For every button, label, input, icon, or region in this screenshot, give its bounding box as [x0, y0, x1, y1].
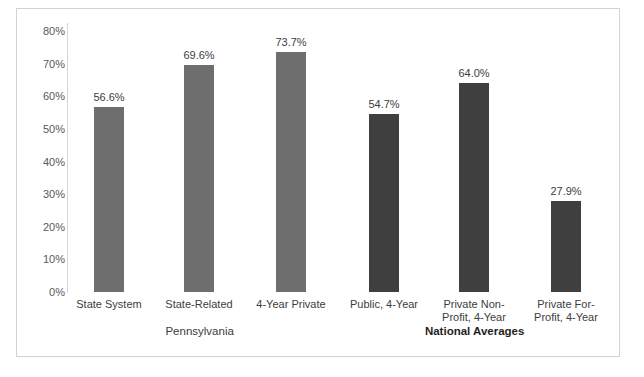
bar-rect[interactable] [94, 107, 124, 292]
bar-group: 56.6%State System [94, 107, 124, 292]
category-label-line: State-Related [156, 298, 242, 311]
category-label-line: State System [66, 298, 152, 311]
plot-area: 80%70%60%50%40%30%20%10%0% 56.6%State Sy… [17, 9, 621, 358]
category-label-line: Private Non- [431, 298, 517, 311]
bar-rect[interactable] [551, 201, 581, 292]
bars-layer: 56.6%State System69.6%State-Related73.7%… [17, 9, 621, 358]
bar-rect[interactable] [459, 83, 489, 292]
bar-group: 27.9%Private For-Profit, 4-Year [551, 201, 581, 292]
bar-group: 73.7%4-Year Private [276, 52, 306, 292]
bar-rect[interactable] [276, 52, 306, 292]
bar-value-label: 64.0% [458, 67, 489, 79]
category-label: Private For-Profit, 4-Year [523, 298, 609, 324]
category-label-line: Profit, 4-Year [523, 311, 609, 324]
bar-value-label: 56.6% [93, 91, 124, 103]
group-label: Pennsylvania [165, 325, 233, 337]
bar-group: 54.7%Public, 4-Year [369, 114, 399, 292]
bar-rect[interactable] [369, 114, 399, 292]
cropped-chart-title [0, 0, 644, 7]
category-label-line: Private For- [523, 298, 609, 311]
category-label: 4-Year Private [248, 298, 334, 311]
category-label: State-Related [156, 298, 242, 311]
bar-value-label: 54.7% [368, 98, 399, 110]
bar-value-label: 27.9% [550, 185, 581, 197]
bar-value-label: 69.6% [183, 49, 214, 61]
chart-frame: 80%70%60%50%40%30%20%10%0% 56.6%State Sy… [16, 8, 620, 357]
group-label: National Averages [425, 325, 525, 337]
category-label: Public, 4-Year [341, 298, 427, 311]
bar-group: 64.0%Private Non-Profit, 4-Year [459, 83, 489, 292]
category-label-line: Profit, 4-Year [431, 311, 517, 324]
category-label: Private Non-Profit, 4-Year [431, 298, 517, 324]
bar-group: 69.6%State-Related [184, 65, 214, 292]
bar-value-label: 73.7% [275, 36, 306, 48]
category-label-line: 4-Year Private [248, 298, 334, 311]
bar-rect[interactable] [184, 65, 214, 292]
category-label: State System [66, 298, 152, 311]
category-label-line: Public, 4-Year [341, 298, 427, 311]
